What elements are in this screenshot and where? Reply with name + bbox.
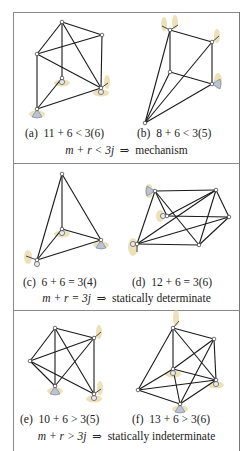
condition-lhs: m + r > 3j — [38, 430, 87, 442]
implies-arrow: ⇒ — [120, 144, 130, 156]
condition-result: statically determinate — [112, 292, 211, 304]
figure-label-c: (c) — [23, 276, 36, 288]
condition-lhs: m + r = 3j — [42, 292, 91, 304]
figure-label-e: (e) — [20, 413, 33, 425]
equation-b: 8 + 6 < 3(5) — [156, 127, 211, 139]
equation-d: 12 + 6 = 3(6) — [151, 276, 212, 288]
condition-indeterminate: m + r > 3j ⇒ statically indeterminate — [13, 430, 240, 443]
figure-label-d: (d) — [132, 276, 145, 288]
equation-c: 6 + 6 = 3(4) — [42, 276, 97, 288]
equation-a: 11 + 6 < 3(6) — [44, 127, 104, 139]
equation-f: 13 + 6 > 3(6) — [149, 413, 210, 425]
panel-mechanism — [13, 12, 240, 164]
figure-label-a: (a) — [25, 127, 38, 139]
figure-label-f: (f) — [132, 413, 144, 425]
figure-label-b: (b) — [137, 127, 150, 139]
equation-e: 10 + 6 > 3(5) — [39, 413, 100, 425]
caption-b: (b) 8 + 6 < 3(5) — [137, 127, 211, 140]
caption-f: (f) 13 + 6 > 3(6) — [132, 413, 210, 426]
condition-determinate: m + r = 3j ⇒ statically determinate — [13, 292, 240, 305]
implies-arrow: ⇒ — [97, 292, 107, 304]
caption-c: (c) 6 + 6 = 3(4) — [23, 276, 97, 289]
caption-a: (a) 11 + 6 < 3(6) — [25, 127, 104, 140]
implies-arrow: ⇒ — [92, 430, 102, 442]
condition-mechanism: m + r < 3j ⇒ mechanism — [13, 144, 240, 157]
caption-e: (e) 10 + 6 > 3(5) — [20, 413, 99, 426]
condition-result: statically indeterminate — [108, 430, 216, 442]
caption-d: (d) 12 + 6 = 3(6) — [132, 276, 212, 289]
condition-lhs: m + r < 3j — [65, 144, 114, 156]
condition-result: mechanism — [135, 144, 187, 156]
